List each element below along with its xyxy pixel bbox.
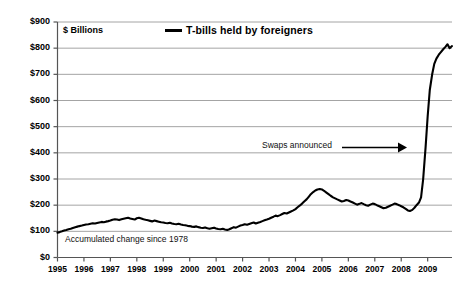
- arrow-head: [398, 143, 407, 153]
- x-axis-tick-label: 2002: [229, 265, 257, 274]
- legend-line-marker-icon: [165, 29, 182, 32]
- x-axis-tick-label: 1998: [123, 265, 151, 274]
- x-axis-tick-label: 2008: [387, 265, 415, 274]
- y-axis-units-label: $ Billions: [63, 25, 103, 35]
- y-axis-tick-label: $100: [4, 226, 50, 235]
- legend-entry-label: T-bills held by foreigners: [186, 24, 313, 36]
- x-axis-tick-label: 2003: [255, 265, 283, 274]
- x-axis-tick-label: 1997: [96, 265, 124, 274]
- x-axis-tick-label: 1995: [44, 265, 72, 274]
- x-axis-tick-label: 2000: [176, 265, 204, 274]
- y-axis-tick-label: $200: [4, 200, 50, 209]
- note-accumulated-change: Accumulated change since 1978: [65, 234, 188, 244]
- x-axis-tick-label: 2004: [281, 265, 309, 274]
- x-axis-tick-label: 2005: [308, 265, 336, 274]
- y-axis-tick-label: $0: [4, 253, 50, 262]
- gridlines: [58, 22, 453, 231]
- x-axis-tick-label: 1996: [70, 265, 98, 274]
- chart-container: $0$100$200$300$400$500$600$700$800$900 1…: [0, 0, 465, 287]
- y-axis-tick-label: $300: [4, 174, 50, 183]
- x-axis-tick-label: 2001: [202, 265, 230, 274]
- annotation-swaps-announced: Swaps announced: [262, 140, 332, 150]
- x-axis-tick-label: 2009: [414, 265, 442, 274]
- y-axis-tick-label: $500: [4, 122, 50, 131]
- x-axis-tick-label: 2007: [361, 265, 389, 274]
- y-axis-tick-label: $600: [4, 96, 50, 105]
- chart-legend: T-bills held by foreigners: [165, 24, 313, 36]
- swaps-annotation-arrow: [342, 143, 407, 153]
- y-axis-tick-label: $800: [4, 43, 50, 52]
- x-axis-tick-label: 2006: [334, 265, 362, 274]
- x-axis-tick-label: 1999: [149, 265, 177, 274]
- y-axis-tick-label: $400: [4, 148, 50, 157]
- data-series-line: [58, 44, 453, 232]
- y-axis-tick-label: $700: [4, 69, 50, 78]
- y-axis-tick-label: $900: [4, 17, 50, 26]
